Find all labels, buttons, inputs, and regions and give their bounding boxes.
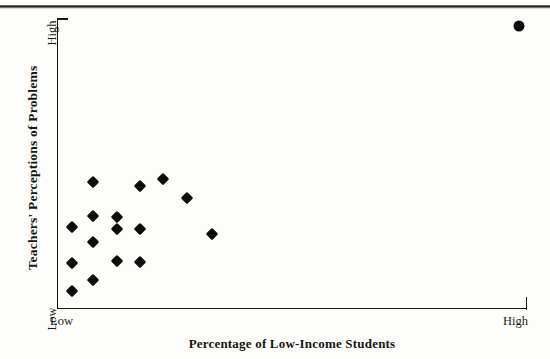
y-axis-tick-label-high: High [45, 21, 60, 65]
x-axis-title: Percentage of Low-Income Students [57, 336, 527, 352]
x-axis-tick-label-low: Low [50, 314, 73, 329]
plot-axes-frame [57, 19, 527, 309]
scatter-plot-figure: Teachers' Perceptions of Problems Percen… [0, 0, 550, 359]
y-axis-title: Teachers' Perceptions of Problems [25, 43, 41, 293]
page-bottom-ghost-text [0, 352, 550, 359]
x-axis-right-tick [526, 297, 528, 310]
x-axis-tick-label-high: High [503, 314, 528, 329]
y-axis-top-tick [57, 18, 68, 20]
data-point-circle [514, 21, 525, 32]
